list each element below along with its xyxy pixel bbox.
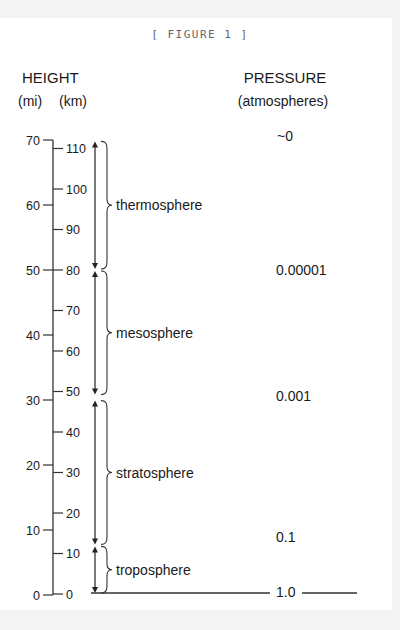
arrow-up-icon <box>92 271 98 277</box>
arrow-down-icon <box>92 389 98 395</box>
pressure-header: PRESSURE <box>244 69 327 86</box>
pressure-label: ~0 <box>277 128 293 144</box>
pressure-unit-label: (atmospheres) <box>238 93 328 109</box>
arrow-down-icon <box>92 263 98 269</box>
pressure-label: 0.1 <box>276 529 296 545</box>
mi-tick-label: 70 <box>26 134 40 148</box>
layer-brace <box>101 141 112 269</box>
km-tick-label: 0 <box>66 588 73 602</box>
arrow-down-icon <box>92 587 98 593</box>
km-tick-label: 70 <box>66 304 80 318</box>
layer-label-troposphere: troposphere <box>116 562 191 578</box>
km-tick-label: 30 <box>66 466 80 480</box>
layer-label-stratosphere: stratosphere <box>116 465 194 481</box>
pressure-label: 0.001 <box>276 388 311 404</box>
km-tick-label: 20 <box>66 507 80 521</box>
km-unit-label: (km) <box>59 93 87 109</box>
arrow-down-icon <box>92 538 98 544</box>
km-tick-label: 40 <box>66 426 80 440</box>
pressure-label: 0.00001 <box>276 262 327 278</box>
km-tick-label: 110 <box>66 142 86 156</box>
km-tick-label: 60 <box>66 345 80 359</box>
layer-label-thermosphere: thermosphere <box>116 197 203 213</box>
arrow-up-icon <box>92 401 98 407</box>
pressure-label: 1.0 <box>276 584 296 600</box>
arrow-up-icon <box>92 141 98 147</box>
layer-brace <box>101 271 112 395</box>
km-tick-label: 50 <box>66 385 80 399</box>
mi-tick-label: 0 <box>33 589 40 603</box>
height-header: HEIGHT <box>22 69 79 86</box>
km-tick-label: 100 <box>66 183 87 197</box>
mi-tick-label: 60 <box>26 199 40 213</box>
layer-brace <box>101 546 112 593</box>
mi-tick-label: 20 <box>26 459 40 473</box>
mi-tick-label: 10 <box>26 524 40 538</box>
mi-unit-label: (mi) <box>18 93 42 109</box>
atmosphere-diagram: HEIGHT (mi) (km) PRESSURE (atmospheres) … <box>0 0 400 630</box>
km-tick-label: 90 <box>66 223 80 237</box>
layer-brace <box>101 401 112 545</box>
mi-tick-label: 30 <box>26 394 40 408</box>
layer-label-mesosphere: mesosphere <box>116 325 193 341</box>
km-tick-label: 10 <box>66 547 80 561</box>
km-tick-label: 80 <box>66 264 80 278</box>
mi-tick-label: 50 <box>26 264 40 278</box>
arrow-up-icon <box>92 546 98 552</box>
mi-tick-label: 40 <box>26 329 40 343</box>
